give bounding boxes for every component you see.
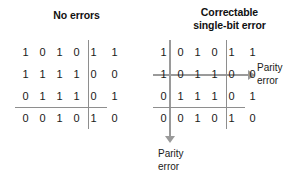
bit-cell: 0	[17, 85, 34, 107]
bit-cell: 0	[68, 41, 85, 63]
table-row-with-error: 1 0 1 1 0 0	[155, 63, 260, 85]
bit-cell: 1	[85, 41, 102, 63]
table-row: 1 1 1 1 0 0	[17, 63, 122, 85]
bit-matrix-correctable-error: 1 0 1 0 1 1 1 0 1 1 0 0 0 1 1 1 0 1 0 0 …	[155, 41, 260, 129]
row-parity-error-label-line-2: error	[257, 75, 283, 88]
column-parity-bit: 0	[206, 107, 223, 129]
column-parity-error-label-line-1: Parity	[158, 148, 184, 161]
bit-cell: 0	[85, 85, 102, 107]
column-parity-arrowhead-icon	[165, 136, 175, 143]
bit-cell: 0	[172, 41, 189, 63]
bit-cell: 1	[17, 63, 34, 85]
row-parity-bit: 1	[107, 85, 122, 107]
row-parity-bit: 1	[107, 41, 122, 63]
bit-cell: 0	[223, 85, 240, 107]
bit-cell: 1	[51, 41, 68, 63]
bit-cell: 1	[223, 41, 240, 63]
bit-matrix-no-errors: 1 0 1 0 1 1 1 1 1 1 0 0 0 1 1 1 0 1 0	[17, 41, 122, 129]
bit-cell: 1	[51, 63, 68, 85]
row-parity-bit: 1	[245, 85, 260, 107]
panel-correctable-error-title: Correctable single-bit error	[153, 6, 306, 31]
bit-cell: 1	[155, 41, 172, 63]
table-row: 0 1 1 1 0 1	[17, 85, 122, 107]
bit-cell: 1	[68, 85, 85, 107]
row-parity-error-label: Parity error	[257, 62, 283, 87]
parity-row: 0 0 1 0 1 0	[17, 107, 122, 129]
bit-cell: 1	[189, 85, 206, 107]
column-parity-bit: 0	[68, 107, 85, 129]
bit-cell: 1	[206, 85, 223, 107]
column-parity-bit: 1	[51, 107, 68, 129]
bit-cell: 0	[85, 63, 102, 85]
row-parity-bit: 0	[245, 63, 260, 85]
column-parity-bit: 1	[223, 107, 240, 129]
table-row: 1 0 1 0 1 1	[17, 41, 122, 63]
row-parity-bit: 1	[245, 41, 260, 63]
table-row: 0 1 1 1 0 1	[155, 85, 260, 107]
column-parity-error-label-line-2: error	[158, 161, 184, 174]
column-parity-bit: 0	[17, 107, 34, 129]
bit-cell: 1	[189, 63, 206, 85]
column-parity-bit: 0	[34, 107, 51, 129]
panel-title-line-1: Correctable	[153, 6, 306, 19]
column-parity-bit: 1	[189, 107, 206, 129]
panel-no-errors: No errors 1 0 1 0 1 1 1 1 1 1 0 0 0 1 1 …	[0, 0, 153, 179]
panel-title-line-2: single-bit error	[153, 19, 306, 32]
parity-row: 0 0 1 0 1 0	[155, 107, 260, 129]
column-parity-error-label: Parity error	[158, 148, 184, 173]
column-parity-bit: 1	[85, 107, 102, 129]
flipped-bit-cell: 0	[172, 63, 189, 85]
bit-cell: 1	[34, 85, 51, 107]
bit-cell: 1	[172, 85, 189, 107]
corner-parity-bit: 0	[245, 107, 260, 129]
bit-cell: 1	[34, 63, 51, 85]
corner-parity-bit: 0	[107, 107, 122, 129]
table-row: 1 0 1 0 1 1	[155, 41, 260, 63]
bit-cell: 1	[68, 63, 85, 85]
bit-cell: 0	[34, 41, 51, 63]
bit-cell: 1	[189, 41, 206, 63]
bit-cell: 0	[223, 63, 240, 85]
bit-cell: 1	[155, 63, 172, 85]
bit-cell: 0	[155, 85, 172, 107]
panel-no-errors-title: No errors	[0, 9, 153, 22]
column-parity-bit: 0	[172, 107, 189, 129]
column-parity-bit: 0	[155, 107, 172, 129]
bit-cell: 1	[17, 41, 34, 63]
bit-cell: 0	[206, 41, 223, 63]
row-parity-bit: 0	[107, 63, 122, 85]
bit-cell: 1	[206, 63, 223, 85]
row-parity-error-label-line-1: Parity	[257, 62, 283, 75]
bit-cell: 1	[51, 85, 68, 107]
